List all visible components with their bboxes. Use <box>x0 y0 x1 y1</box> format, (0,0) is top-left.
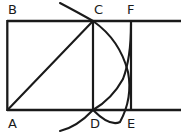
vertex-label-F: F <box>127 3 134 16</box>
diagonal-AC <box>8 21 94 110</box>
vertex-label-C: C <box>94 3 103 16</box>
vertex-label-D: D <box>90 117 100 130</box>
geometry-figure: B C F A D E <box>0 0 188 136</box>
vertex-label-B: B <box>8 3 17 16</box>
arc-from-D-to-F <box>93 24 131 110</box>
arc-centered-at-A-through-C-and-D <box>60 3 129 131</box>
vertex-label-E: E <box>127 117 135 130</box>
vertex-label-A: A <box>8 117 17 130</box>
